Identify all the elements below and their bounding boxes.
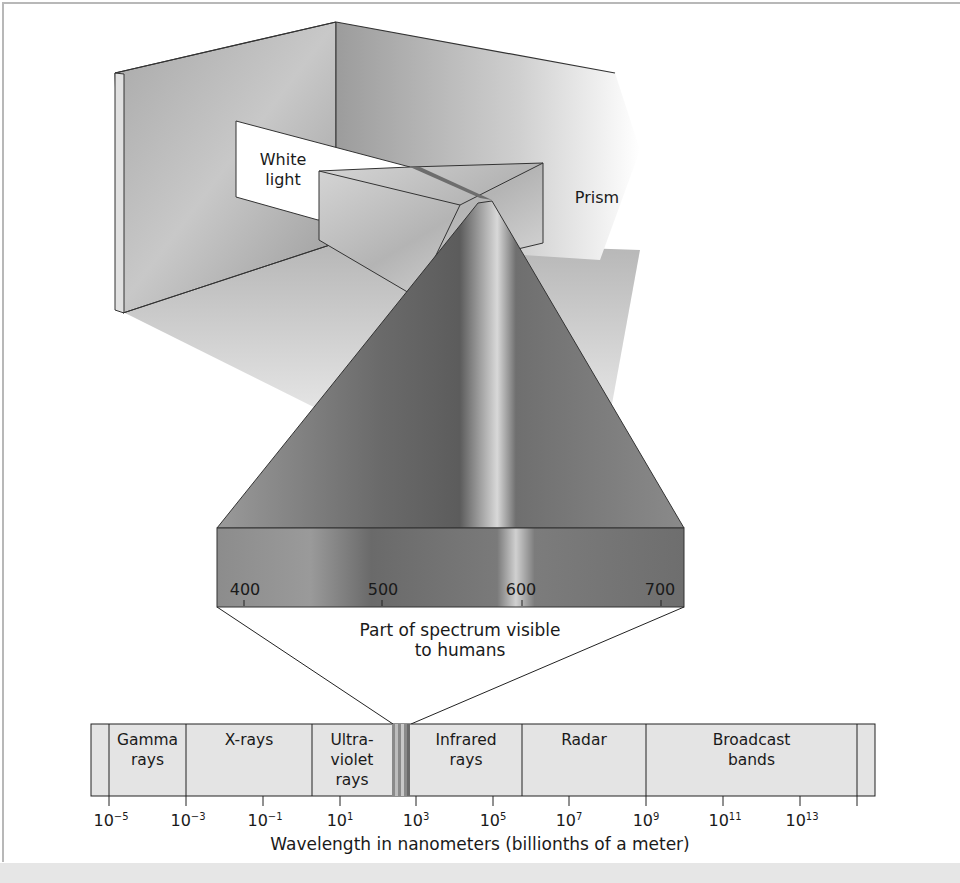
tick-1e-5: 10−5 — [93, 812, 128, 830]
band-radar: Radar — [522, 730, 646, 750]
visible-tick-400: 400 — [230, 581, 261, 599]
visible-part-label: Part of spectrum visible to humans — [300, 620, 620, 660]
band-infrared: Infraredrays — [410, 730, 522, 770]
tick-1e-1: 10−1 — [247, 812, 282, 830]
band-broadcast: Broadcastbands — [646, 730, 857, 770]
band-ultraviolet: Ultra-violetrays — [312, 730, 392, 790]
visible-tick-600: 600 — [506, 581, 537, 599]
band-x-rays: X-rays — [186, 730, 312, 750]
tick-1e3: 103 — [403, 812, 430, 830]
prism-label: Prism — [567, 188, 627, 208]
tick-1e5: 105 — [480, 812, 507, 830]
band-gamma-rays: Gammarays — [109, 730, 186, 770]
tick-1e9: 109 — [633, 812, 660, 830]
white-light-label: White light — [248, 150, 318, 190]
tick-1e11: 1011 — [708, 812, 741, 830]
axis-title: Wavelength in nanometers (billionths of … — [0, 834, 960, 854]
tick-1e-3: 10−3 — [170, 812, 205, 830]
tick-1e1: 101 — [327, 812, 354, 830]
visible-tick-500: 500 — [368, 581, 399, 599]
tick-1e13: 1013 — [785, 812, 818, 830]
visible-tick-700: 700 — [645, 581, 676, 599]
tick-1e7: 107 — [556, 812, 583, 830]
